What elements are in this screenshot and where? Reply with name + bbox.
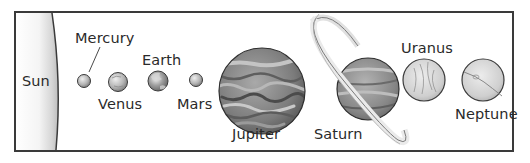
label-mars: Mars <box>177 96 212 112</box>
label-mercury: Mercury <box>75 30 134 46</box>
earth <box>148 71 168 91</box>
label-venus: Venus <box>98 96 142 112</box>
uranus <box>403 59 445 101</box>
saturn <box>312 14 406 144</box>
label-jupiter: Jupiter <box>232 126 280 142</box>
label-sun: Sun <box>22 73 50 89</box>
label-neptune: Neptune <box>455 106 518 122</box>
mercury-pointer-line <box>89 47 100 72</box>
neptune <box>462 59 504 101</box>
venus <box>109 73 128 92</box>
label-uranus: Uranus <box>401 40 453 56</box>
label-saturn: Saturn <box>314 126 362 142</box>
label-earth: Earth <box>142 52 181 68</box>
jupiter <box>218 48 306 134</box>
mercury <box>78 47 101 88</box>
mars <box>190 74 203 87</box>
